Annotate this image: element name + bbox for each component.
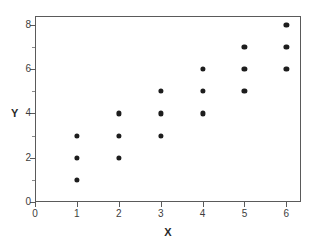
y-tick-label: 4 xyxy=(25,108,31,118)
data-point xyxy=(284,22,289,27)
x-tick xyxy=(203,202,204,207)
y-tick-label: 2 xyxy=(25,153,31,163)
y-axis-title: Y xyxy=(11,107,18,119)
data-point xyxy=(200,111,205,116)
x-tick-label: 0 xyxy=(32,209,38,219)
y-tick-label: 6 xyxy=(25,64,31,74)
x-tick-label: 1 xyxy=(74,209,80,219)
data-point xyxy=(74,177,79,182)
x-axis: 0123456 xyxy=(35,202,301,222)
plot-data-area xyxy=(35,16,301,202)
scatter-chart-figure: 02468 0123456 Y X xyxy=(0,0,319,248)
data-point xyxy=(158,111,163,116)
data-point xyxy=(158,133,163,138)
x-tick-label: 2 xyxy=(116,209,122,219)
x-tick xyxy=(119,202,120,207)
data-point xyxy=(158,89,163,94)
x-tick xyxy=(244,202,245,207)
x-tick xyxy=(35,202,36,207)
data-point xyxy=(74,155,79,160)
y-minor-tick xyxy=(32,47,35,48)
data-point xyxy=(116,155,121,160)
y-minor-tick xyxy=(32,180,35,181)
x-tick-label: 3 xyxy=(158,209,164,219)
y-minor-tick xyxy=(32,136,35,137)
x-tick-label: 6 xyxy=(284,209,290,219)
x-axis-title: X xyxy=(35,226,301,238)
data-point xyxy=(200,89,205,94)
data-point xyxy=(116,111,121,116)
x-tick xyxy=(161,202,162,207)
data-point xyxy=(284,44,289,49)
data-point xyxy=(116,133,121,138)
data-point xyxy=(74,133,79,138)
data-point xyxy=(200,67,205,72)
data-point xyxy=(242,89,247,94)
y-tick-label: 8 xyxy=(25,20,31,30)
x-tick-label: 4 xyxy=(200,209,206,219)
data-point xyxy=(242,67,247,72)
data-point xyxy=(242,44,247,49)
y-minor-tick xyxy=(32,91,35,92)
data-point xyxy=(284,67,289,72)
x-tick xyxy=(77,202,78,207)
x-tick-label: 5 xyxy=(242,209,248,219)
x-tick xyxy=(286,202,287,207)
y-tick-label: 0 xyxy=(25,197,31,207)
